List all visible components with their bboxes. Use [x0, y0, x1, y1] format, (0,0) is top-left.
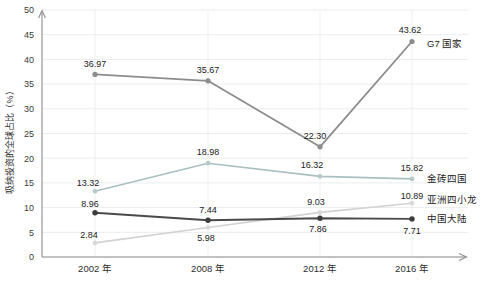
- series-g7-label-2008: 35.67: [197, 65, 220, 75]
- series-asian-tigers-label-2016: 10.89: [401, 191, 424, 201]
- y-tick-30: 30: [24, 104, 34, 114]
- legend-label-g7: G7 国家: [427, 38, 462, 49]
- y-tick-0: 0: [29, 252, 34, 262]
- series-brics-point-2008[interactable]: [206, 161, 211, 166]
- series-brics-label-2008: 18.98: [197, 147, 220, 157]
- x-label-2008: 2008 年: [191, 263, 225, 274]
- y-tick-10: 10: [24, 203, 34, 213]
- series-brics-point-2012[interactable]: [318, 174, 323, 179]
- series-asian-tigers-point-2016[interactable]: [410, 201, 415, 206]
- series-asian-tigers-label-2012: 9.03: [307, 197, 325, 207]
- series-g7-point-2002[interactable]: [92, 72, 97, 77]
- series-mainland-china-label-2008: 7.44: [199, 205, 217, 215]
- y-tick-45: 45: [24, 30, 34, 40]
- series-brics-label-2002: 13.32: [77, 178, 100, 188]
- line-chart: 0 5 10 15 20 25 30 35 40 45 50 吸纳投资的全球占比…: [0, 0, 483, 281]
- y-tick-35: 35: [24, 79, 34, 89]
- chart-canvas: 0 5 10 15 20 25 30 35 40 45 50 吸纳投资的全球占比…: [0, 0, 483, 281]
- series-g7-label-2016: 43.62: [399, 25, 422, 35]
- series-mainland-china-point-2012[interactable]: [317, 216, 322, 221]
- series-asian-tigers-label-2008: 5.98: [197, 233, 215, 243]
- series-asian-tigers-label-2002: 2.84: [80, 230, 98, 240]
- x-label-2016: 2016 年: [395, 263, 429, 274]
- series-brics-label-2016: 15.82: [401, 163, 424, 173]
- series-mainland-china-point-2016[interactable]: [409, 216, 414, 221]
- series-mainland-china-point-2008[interactable]: [205, 218, 210, 223]
- y-tick-5: 5: [29, 228, 34, 238]
- series-g7-label-2012: 22.30: [304, 131, 327, 141]
- x-label-2002: 2002 年: [78, 263, 112, 274]
- series-asian-tigers-point-2002[interactable]: [93, 241, 98, 246]
- series-mainland-china-label-2002: 8.96: [81, 199, 99, 209]
- legend-label-brics: 金砖四国: [427, 173, 467, 184]
- legend-label-mainland-china: 中国大陆: [427, 213, 467, 224]
- y-tick-50: 50: [24, 5, 34, 15]
- legend-label-asian-tigers: 亚洲四小龙: [427, 194, 477, 205]
- series-brics-point-2016[interactable]: [410, 177, 415, 182]
- series-brics-label-2012: 16.32: [301, 160, 324, 170]
- series-mainland-china-point-2002[interactable]: [92, 210, 97, 215]
- series-g7-point-2016[interactable]: [409, 39, 414, 44]
- y-axis-title: 吸纳投资的全球占比（%）: [4, 86, 15, 193]
- y-tick-20: 20: [24, 154, 34, 164]
- series-brics-point-2002[interactable]: [93, 189, 98, 194]
- series-mainland-china-label-2012: 7.86: [309, 224, 327, 234]
- x-label-2012: 2012 年: [303, 263, 337, 274]
- series-mainland-china-label-2016: 7.71: [403, 226, 421, 236]
- series-g7-point-2008[interactable]: [205, 78, 210, 83]
- series-asian-tigers-point-2012[interactable]: [318, 210, 323, 215]
- y-tick-40: 40: [24, 55, 34, 65]
- series-g7-label-2002: 36.97: [84, 59, 107, 69]
- series-asian-tigers-point-2008[interactable]: [206, 225, 211, 230]
- series-g7-point-2012[interactable]: [317, 144, 322, 149]
- y-tick-25: 25: [24, 129, 34, 139]
- y-tick-15: 15: [24, 178, 34, 188]
